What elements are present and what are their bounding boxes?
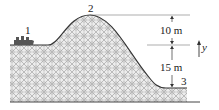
roller-coaster-diagram	[0, 0, 219, 110]
coaster-car-icon	[14, 36, 34, 45]
point-1-label: 1	[25, 25, 31, 36]
dimension-15m-label: 15 m	[160, 62, 182, 73]
y-axis-label: y	[202, 42, 207, 53]
y-axis-arrow-icon	[197, 40, 201, 57]
dimension-10m-label: 10 m	[160, 25, 182, 36]
point-3-label: 3	[181, 76, 187, 87]
point-2-label: 2	[88, 3, 94, 14]
